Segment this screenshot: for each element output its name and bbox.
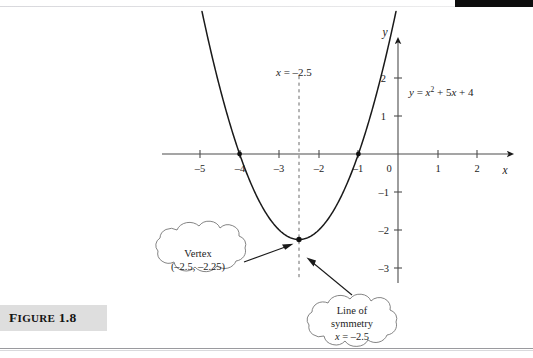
vertex-arrowhead [282,244,294,250]
x-axis-label: x [501,164,508,176]
x-tick-label: –5 [194,163,206,174]
page-bottom-rule-soft [0,350,533,351]
svg-text:x = –2.5: x = –2.5 [275,66,312,78]
svg-text:y = x2 + 5x + 4: y = x2 + 5x + 4 [408,85,474,99]
vertex-callout-line1: Vertex [184,248,212,259]
x-intercept-point-left [237,152,242,157]
x-tick-label: –3 [273,163,285,174]
symmetry-arrowhead [307,258,317,267]
x-tick-label: –2 [313,163,325,174]
y-tick-label: –1 [378,187,390,198]
symmetry-callout-line1: Line of [337,305,368,316]
figure-caption-band: FIGURE 1.8 [0,305,107,331]
x-axis: x [162,150,508,176]
parabola-curve-main [202,11,396,239]
page-bottom-rule [0,348,533,349]
symmetry-callout-line2: symmetry [331,318,374,329]
x-tick-label: 2 [474,163,479,174]
x-tick-labels: –5 –4 –3 –2 –1 0 1 2 [194,163,480,174]
vertex-callout-line2: (–2.5, –2.25) [171,261,226,273]
x-tick-label: 1 [435,163,440,174]
y-tick-label: –2 [378,225,390,236]
symmetry-callout-line3: x = –2.5 [334,331,369,342]
figure-caption-number: 1.8 [59,310,77,325]
y-tick-label: 1 [381,111,386,122]
figure-caption-lead: F [9,310,18,325]
figure-page: x y –5 –4 –3 –2 –1 0 1 2 2 1 –1 [0,0,533,358]
symmetry-top-label: x = –2.5 [275,66,312,78]
symmetry-leader-line [312,262,352,295]
figure-caption-rest: IGURE [18,312,56,324]
figure-caption-text: FIGURE 1.8 [0,310,77,326]
equation-label: y = x2 + 5x + 4 [408,85,474,99]
callout-vertex[interactable]: Vertex (–2.5, –2.25) [156,221,294,273]
x-tick-label-origin: 0 [386,163,391,174]
vertex-leader-line [244,246,288,262]
x-intercept-point-right [356,152,361,157]
y-tick-label: –3 [378,263,390,274]
vertex-point [296,237,301,242]
y-axis-label: y [381,26,388,39]
